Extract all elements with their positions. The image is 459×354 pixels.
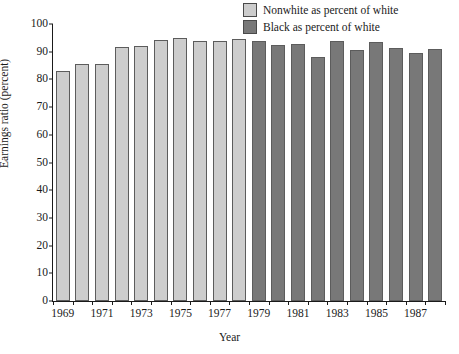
x-tick-label: 1975 [169,308,192,320]
y-tick-label: 30 [2,212,53,224]
x-tick-mark [53,301,54,305]
x-tick-mark [229,301,230,305]
x-tick-mark [347,301,348,305]
y-tick-mark [49,273,53,274]
bar-1981 [291,44,305,301]
legend-swatch-nonwhite [243,3,257,17]
x-tick-mark [445,301,446,305]
x-tick-mark [406,301,407,305]
y-tick-mark [49,217,53,218]
bar-1972 [115,47,129,301]
x-tick-mark [425,301,426,305]
x-tick-label: 1983 [326,308,349,320]
x-tick-mark [73,301,74,305]
x-tick-label: 1981 [287,308,310,320]
legend-label-nonwhite: Nonwhite as percent of white [263,4,398,16]
x-tick-mark [112,301,113,305]
bar-chart: Nonwhite as percent of white Black as pe… [0,0,459,354]
bar-1982 [311,57,325,301]
bar-1974 [154,40,168,301]
bar-1987 [409,53,423,301]
y-tick-mark [49,162,53,163]
x-tick-mark [269,301,270,305]
y-axis-title: Earnings ratio (percent) [0,59,10,168]
x-tick-mark [151,301,152,305]
x-tick-mark [131,301,132,305]
x-tick-mark [327,301,328,305]
legend-item-nonwhite: Nonwhite as percent of white [243,2,458,18]
y-tick-mark [49,51,53,52]
y-tick-label: 20 [2,240,53,252]
y-tick-mark [49,134,53,135]
bar-1971 [95,64,109,301]
y-tick-label: 10 [2,268,53,280]
x-tick-mark [171,301,172,305]
x-tick-mark [386,301,387,305]
x-tick-mark [249,301,250,305]
bar-1983 [330,41,344,301]
bar-1984 [350,50,364,301]
bar-1988 [428,49,442,301]
x-tick-label: 1979 [247,308,270,320]
bar-1978 [232,39,246,301]
x-tick-label: 1977 [208,308,231,320]
y-tick-label: 0 [2,295,53,307]
bar-1975 [173,38,187,301]
y-tick-label: 100 [2,18,53,30]
bar-1985 [369,42,383,301]
y-tick-mark [49,107,53,108]
y-tick-mark [49,79,53,80]
bar-1980 [271,45,285,301]
bar-1970 [75,64,89,301]
x-tick-label: 1985 [365,308,388,320]
x-tick-mark [92,301,93,305]
bar-1976 [193,41,207,301]
bar-1979 [252,41,266,301]
x-tick-mark [308,301,309,305]
x-tick-mark [367,301,368,305]
x-tick-label: 1987 [404,308,427,320]
bar-1973 [134,46,148,301]
x-tick-mark [288,301,289,305]
bar-1986 [389,48,403,301]
x-tick-label: 1969 [51,308,74,320]
y-tick-label: 90 [2,46,53,58]
x-tick-label: 1971 [91,308,114,320]
y-tick-mark [49,245,53,246]
x-tick-mark [210,301,211,305]
x-axis-title: Year [0,331,459,343]
y-tick-mark [49,24,53,25]
bar-1969 [56,71,70,301]
y-tick-label: 40 [2,184,53,196]
y-tick-mark [49,190,53,191]
x-tick-mark [190,301,191,305]
plot-area: 0102030405060708090100196919711973197519… [53,24,445,301]
bar-1977 [213,41,227,301]
x-tick-label: 1973 [130,308,153,320]
